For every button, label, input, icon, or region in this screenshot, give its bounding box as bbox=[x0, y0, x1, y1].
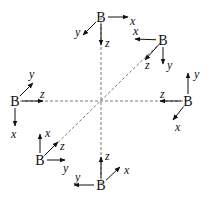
y-axis-label: y bbox=[74, 170, 81, 184]
diagram-canvas: xyzBxzyByzxByzxBxzyBzxyB bbox=[0, 0, 211, 198]
frame-lower-left: xzyB bbox=[35, 126, 69, 175]
frames-group: xyzBxzyByzxByzxBxzyBzxyB bbox=[10, 10, 200, 193]
x-axis-label: x bbox=[44, 126, 51, 140]
x-axis-label: x bbox=[10, 127, 17, 141]
x-axis-arrow-icon bbox=[135, 39, 156, 40]
coordinate-frames-diagram: xyzBxzyByzxByzxBxzyBzxyB bbox=[0, 0, 211, 198]
x-axis-arrow-icon bbox=[106, 167, 120, 180]
x-axis-label: x bbox=[123, 163, 130, 177]
z-axis-arrow-icon bbox=[45, 142, 58, 155]
y-axis-arrow-icon bbox=[20, 83, 33, 96]
frame-origin-label: B bbox=[10, 94, 19, 109]
y-axis-label: y bbox=[166, 58, 173, 72]
z-axis-label: z bbox=[104, 149, 110, 163]
frame-origin-label: B bbox=[96, 178, 105, 193]
frame-right: yzxB bbox=[159, 67, 200, 134]
z-axis-label: z bbox=[39, 87, 45, 101]
frame-origin-label: B bbox=[35, 153, 44, 168]
y-axis-label: y bbox=[28, 67, 35, 81]
y-axis-arrow-icon bbox=[83, 22, 96, 35]
z-axis-label: z bbox=[59, 139, 65, 153]
x-axis-arrow-icon bbox=[173, 106, 184, 120]
y-axis-label: y bbox=[193, 67, 200, 81]
frame-origin-label: B bbox=[96, 10, 105, 25]
y-axis-label: y bbox=[74, 25, 81, 39]
x-axis-label: x bbox=[132, 24, 139, 38]
z-axis-label: z bbox=[144, 58, 150, 72]
y-axis-label: y bbox=[62, 161, 69, 175]
x-axis-label: x bbox=[174, 120, 181, 134]
frame-top: xyzB bbox=[74, 10, 136, 50]
z-axis-label: z bbox=[159, 87, 165, 101]
frame-left: yzxB bbox=[10, 67, 45, 141]
z-axis-label: z bbox=[104, 36, 110, 50]
frame-origin-label: B bbox=[183, 94, 192, 109]
frame-origin-label: B bbox=[158, 33, 167, 48]
frame-bottom: zxyB bbox=[74, 149, 130, 193]
